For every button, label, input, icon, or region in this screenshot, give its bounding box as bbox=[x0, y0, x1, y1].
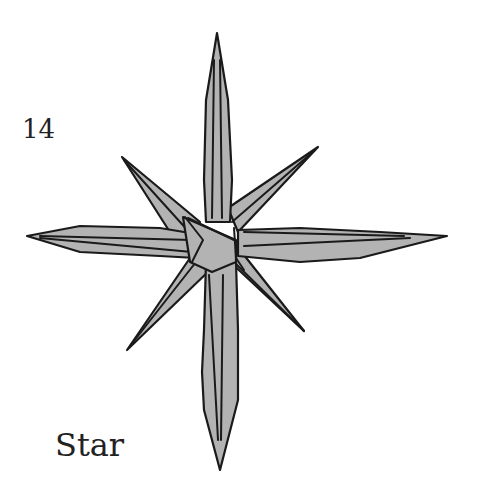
arm-right bbox=[238, 228, 447, 262]
diagonal-arm-lower-left bbox=[127, 258, 212, 350]
origami-star-diagram bbox=[0, 0, 491, 498]
arm-left bbox=[27, 226, 196, 258]
caption-title: Star bbox=[55, 426, 124, 464]
diagonal-arm-upper-right bbox=[228, 147, 318, 232]
arm-top bbox=[204, 33, 232, 222]
arm-bottom bbox=[202, 262, 238, 470]
